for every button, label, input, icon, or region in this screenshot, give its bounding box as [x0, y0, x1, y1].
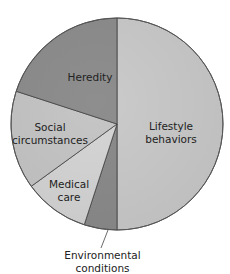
label-environmental: Environmental conditions — [50, 249, 155, 274]
label-social: Social circumstances — [10, 121, 90, 147]
label-lifestyle: Lifestyle behaviors — [136, 120, 206, 146]
label-text: conditions — [50, 262, 155, 274]
label-text: circumstances — [10, 134, 90, 147]
label-text: Environmental — [50, 249, 155, 262]
label-text: Lifestyle — [136, 120, 206, 133]
label-text: Heredity — [68, 71, 113, 83]
env-leader-line — [101, 230, 108, 248]
label-text: care — [44, 191, 94, 204]
label-heredity: Heredity — [55, 71, 125, 84]
label-text: behaviors — [136, 133, 206, 146]
label-medical: Medical care — [44, 178, 94, 204]
label-text: Medical — [44, 178, 94, 191]
label-text: Social — [10, 121, 90, 134]
